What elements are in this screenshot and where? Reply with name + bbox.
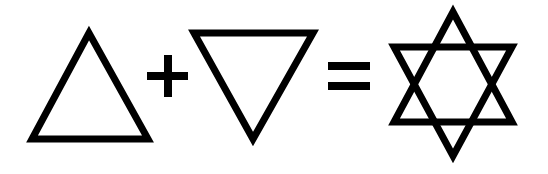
plus-icon: [147, 55, 188, 97]
equals-icon: [328, 62, 370, 90]
diagram-canvas: Upward triangle plus downward triangle e…: [0, 0, 548, 174]
down-triangle-icon: [194, 33, 313, 139]
hexagram-icon: [394, 12, 512, 156]
equation-svg: [0, 0, 548, 174]
up-triangle-icon: [32, 33, 148, 139]
